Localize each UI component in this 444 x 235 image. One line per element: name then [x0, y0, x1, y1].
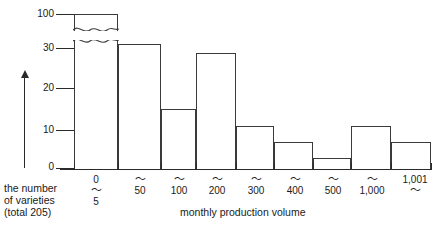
- x-axis-label-100: 〜 100: [159, 174, 199, 196]
- x-axis-label-300: 〜 300: [236, 174, 276, 196]
- x-axis-label-50-squiggle: 〜: [120, 174, 160, 185]
- y-axis-direction-arrow-icon: [21, 70, 29, 78]
- x-axis-label-100-squiggle: 〜: [159, 174, 199, 185]
- y-tick-mark-20: [56, 88, 74, 89]
- x-tick-mark-3: [196, 163, 197, 169]
- x-axis-baseline: [60, 169, 432, 170]
- y-axis-caption-line-1: the number: [4, 182, 74, 194]
- x-axis-label-0-squiggle: 〜: [76, 185, 116, 196]
- x-axis-label-300-squiggle: 〜: [236, 174, 276, 185]
- y-tick-label-0: 0: [28, 162, 54, 172]
- x-tick-mark-8: [391, 163, 392, 169]
- bar-1001-plus: [391, 142, 431, 169]
- x-axis-label-300-value: 300: [236, 185, 276, 196]
- y-tick-label-20: 20: [28, 83, 54, 93]
- x-axis-label-1001-squiggle: 〜: [392, 185, 438, 196]
- bar-200: [196, 53, 236, 169]
- y-axis-caption-line-2: of varieties: [4, 194, 74, 206]
- x-axis-label-200: 〜 200: [197, 174, 237, 196]
- bar-50: [118, 44, 161, 169]
- x-axis-label-200-value: 200: [197, 185, 237, 196]
- x-axis-label-1000-value: 1,000: [350, 185, 394, 196]
- x-axis-label-50-value: 50: [120, 185, 160, 196]
- x-tick-mark-6: [313, 163, 314, 169]
- x-axis-label-1001-plus: 1,001 〜: [392, 174, 438, 196]
- chart-canvas: 100 30 20 10 0: [0, 0, 444, 235]
- x-axis-label-500-squiggle: 〜: [313, 174, 353, 185]
- y-axis-caption-line-3: (total 205): [4, 206, 74, 218]
- y-tick-label-30: 30: [28, 43, 54, 53]
- y-tick-label-100: 100: [28, 9, 54, 19]
- x-axis-label-200-squiggle: 〜: [197, 174, 237, 185]
- x-axis-label-400-value: 400: [275, 185, 315, 196]
- bar-1000: [351, 126, 391, 169]
- x-axis-label-0: 0 〜 5: [76, 174, 116, 207]
- x-tick-mark-7: [351, 163, 352, 169]
- x-axis-label-100-value: 100: [159, 185, 199, 196]
- y-tick-mark-10: [56, 130, 74, 131]
- x-axis-label-50: 〜 50: [120, 174, 160, 196]
- x-tick-mark-2: [161, 163, 162, 169]
- bar-500: [313, 158, 351, 169]
- x-tick-mark-5: [274, 163, 275, 169]
- x-axis-label-400-squiggle: 〜: [275, 174, 315, 185]
- y-axis-direction-arrow-shaft: [24, 77, 25, 168]
- bar-400: [274, 142, 313, 169]
- bar-300: [236, 126, 274, 169]
- x-axis-label-500: 〜 500: [313, 174, 353, 196]
- x-tick-mark-9: [431, 163, 432, 169]
- y-tick-mark-30: [56, 48, 74, 49]
- x-tick-mark-1: [118, 163, 119, 169]
- x-axis-label-500-value: 500: [313, 185, 353, 196]
- x-axis-title: monthly production volume: [180, 206, 305, 218]
- y-axis-caption: the number of varieties (total 205): [4, 182, 74, 218]
- x-tick-mark-4: [236, 163, 237, 169]
- x-axis-label-0-bottom: 5: [76, 196, 116, 207]
- y-axis-break-squiggle: [73, 22, 119, 46]
- x-tick-mark-0: [74, 163, 75, 169]
- y-tick-mark-100: [56, 14, 74, 15]
- y-tick-label-10: 10: [28, 125, 54, 135]
- x-axis-label-1000: 〜 1,000: [350, 174, 394, 196]
- bar-100: [161, 109, 196, 169]
- x-axis-label-1000-squiggle: 〜: [350, 174, 394, 185]
- x-axis-label-400: 〜 400: [275, 174, 315, 196]
